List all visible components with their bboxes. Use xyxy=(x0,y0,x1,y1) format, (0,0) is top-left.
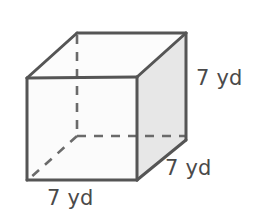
edge-front-top xyxy=(27,77,137,78)
dimension-label-width: 7 yd xyxy=(47,188,94,209)
dimension-label-height: 7 yd xyxy=(196,68,243,89)
cube-front-face xyxy=(27,77,137,180)
cube-figure-container: 7 yd 7 yd 7 yd xyxy=(0,0,253,215)
dimension-label-depth: 7 yd xyxy=(165,158,212,179)
cube-diagram xyxy=(0,0,253,215)
